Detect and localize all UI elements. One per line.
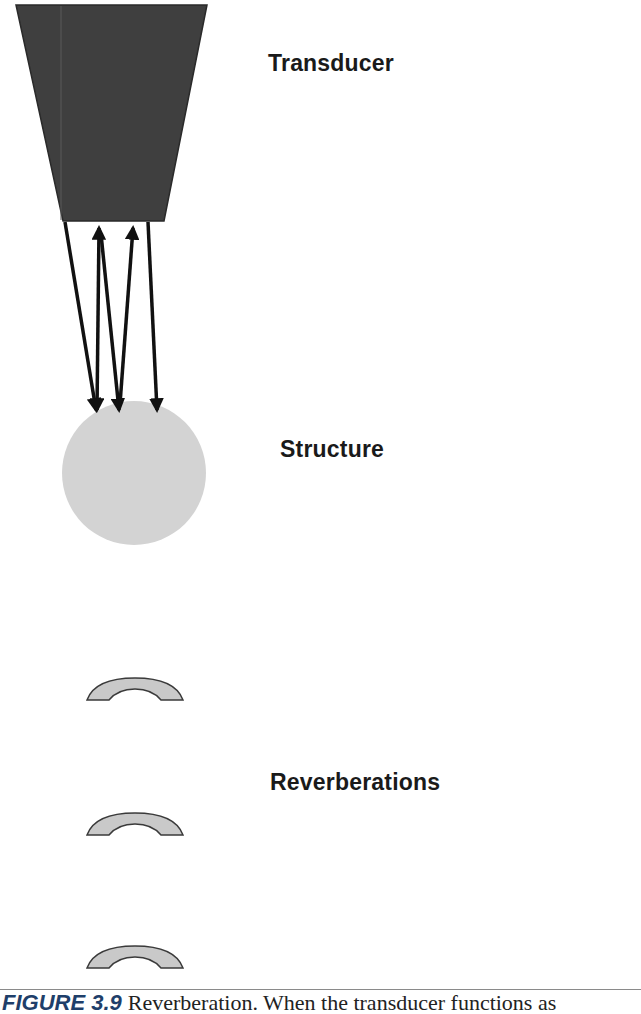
reverberation-arc-1: [87, 678, 183, 700]
reverberation-arc-2: [87, 813, 183, 835]
reverberation-arc-3: [87, 946, 183, 968]
figure-caption: FIGURE 3.9Reverberation. When the transd…: [2, 990, 641, 1014]
beam-arrow-2: [97, 228, 99, 410]
transducer-label: Transducer: [268, 50, 394, 77]
figure-number: FIGURE 3.9: [2, 990, 122, 1014]
reverberations-label: Reverberations: [270, 769, 440, 796]
beam-arrows: [65, 222, 157, 410]
structure-circle: [62, 401, 206, 545]
beam-arrow-1: [65, 222, 96, 410]
reverberation-arcs: [87, 678, 183, 968]
beam-arrow-5: [148, 222, 157, 410]
beam-arrow-3: [101, 234, 119, 410]
beam-arrow-4: [120, 228, 133, 404]
caption-text: Reverberation. When the transducer funct…: [128, 990, 556, 1014]
transducer-shape: [16, 5, 207, 221]
structure-label: Structure: [280, 436, 384, 463]
